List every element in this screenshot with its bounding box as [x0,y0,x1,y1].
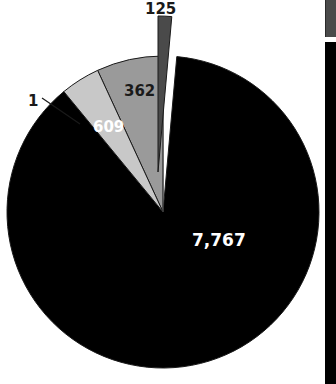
chart-canvas: 7,767 609 362 125 1 [0,0,336,384]
legend-swatch[interactable] [325,0,336,37]
slice-label-1: 1 [28,94,38,109]
legend-bar [325,42,336,384]
slice-label-125: 125 [145,2,176,17]
legend-strip-cropped [325,0,336,384]
slice-label-362: 362 [124,84,155,99]
slice-label-7767: 7,767 [192,232,246,249]
slice-label-609: 609 [93,120,124,135]
pie-chart [0,0,336,384]
